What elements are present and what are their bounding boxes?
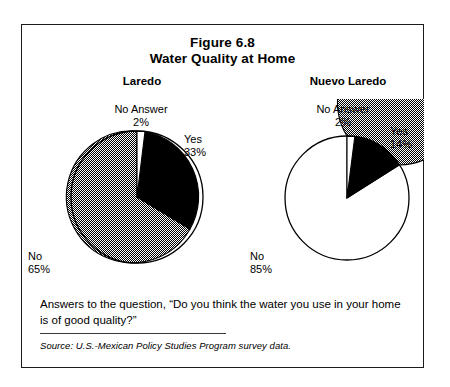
- pie-label-laredo-no-value: 65%: [28, 263, 84, 276]
- figure-caption: Answers to the question, “Do you think t…: [40, 297, 402, 328]
- figure-container: Figure 6.8 Water Quality at Home Laredo …: [0, 0, 450, 387]
- pie-label-laredo-no-name: No: [28, 250, 84, 263]
- pie-label-nuevo-laredo-no: No 85%: [250, 250, 306, 276]
- figure-source: Source: U.S.-Mexican Policy Studies Prog…: [40, 340, 402, 352]
- pie-label-nuevo-laredo-no-name: No: [250, 250, 306, 263]
- pie-label-nuevo-laredo-no-value: 85%: [250, 263, 306, 276]
- panel-label-nuevo-laredo: Nuevo Laredo: [284, 75, 412, 87]
- pie-label-laredo-no-answer-name: No Answer: [86, 103, 196, 116]
- pie-label-nuevo-laredo-no-answer-value: 2%: [288, 116, 398, 129]
- figure-frame: Figure 6.8 Water Quality at Home Laredo …: [21, 24, 424, 368]
- pie-label-laredo-no-answer-value: 2%: [86, 116, 196, 129]
- pie-label-nuevo-laredo-yes: Yes 14%: [390, 125, 440, 151]
- panel-label-laredo: Laredo: [82, 75, 202, 87]
- figure-title: Figure 6.8 Water Quality at Home: [22, 35, 423, 67]
- pie-label-laredo-yes: Yes 33%: [184, 133, 236, 159]
- pie-label-laredo-no: No 65%: [28, 250, 84, 276]
- pie-label-nuevo-laredo-no-answer: No Answer 2%: [288, 103, 398, 129]
- pie-label-laredo-yes-name: Yes: [184, 133, 236, 146]
- pie-label-nuevo-laredo-yes-value: 14%: [390, 138, 440, 151]
- pie-label-nuevo-laredo-yes-name: Yes: [390, 125, 440, 138]
- figure-title-line-2: Water Quality at Home: [22, 51, 423, 67]
- figure-title-line-1: Figure 6.8: [22, 35, 423, 51]
- pie-label-laredo-yes-value: 33%: [184, 146, 236, 159]
- source-divider: [40, 333, 226, 334]
- pie-label-laredo-no-answer: No Answer 2%: [86, 103, 196, 129]
- pie-label-nuevo-laredo-no-answer-name: No Answer: [288, 103, 398, 116]
